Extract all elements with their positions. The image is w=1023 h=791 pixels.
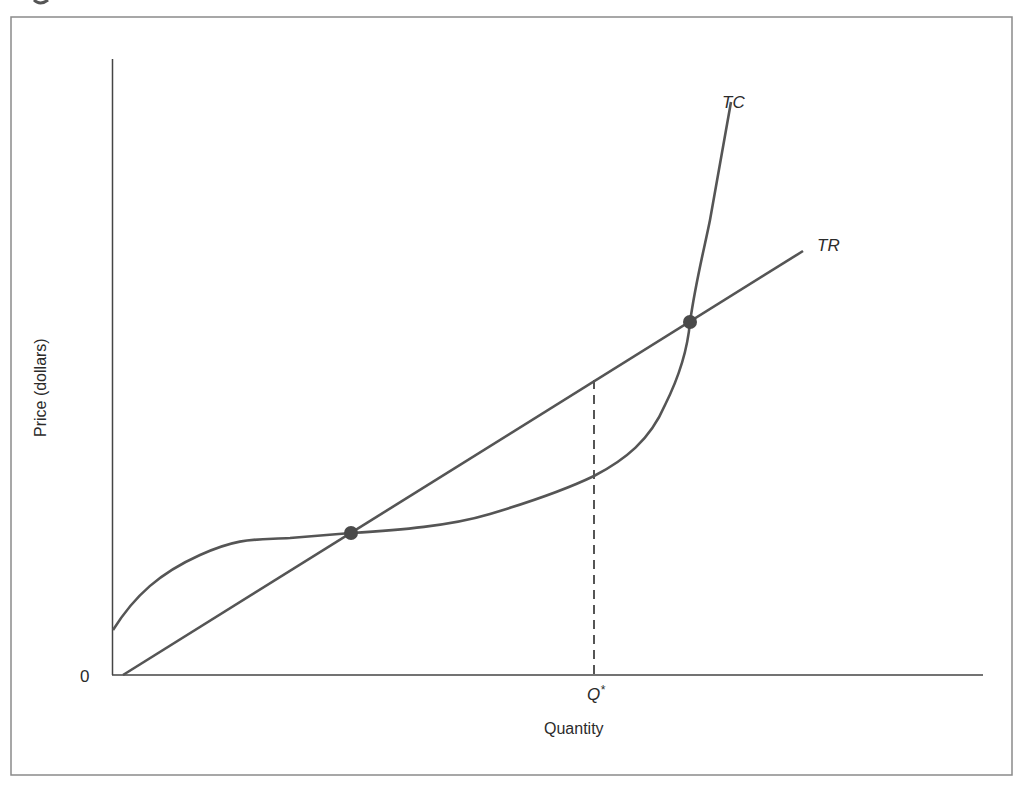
q-star-letter: Q xyxy=(587,685,600,704)
clipped-caption-glyph xyxy=(34,0,48,3)
tc-label: TC xyxy=(722,93,745,112)
q-star-label: Q* xyxy=(587,683,605,704)
chart: TC TR 0 Q* Quantity Price (dollars) xyxy=(0,0,1023,791)
break-even-point-2 xyxy=(683,315,697,329)
y-axis-title: Price (dollars) xyxy=(32,338,49,437)
break-even-point-1 xyxy=(344,526,358,540)
figure-frame xyxy=(11,17,1012,775)
origin-label: 0 xyxy=(80,667,89,686)
q-star-superscript: * xyxy=(600,683,605,697)
tr-line xyxy=(123,251,803,675)
tr-label: TR xyxy=(817,236,840,255)
tc-curve xyxy=(113,102,731,630)
x-axis-title: Quantity xyxy=(544,720,604,737)
